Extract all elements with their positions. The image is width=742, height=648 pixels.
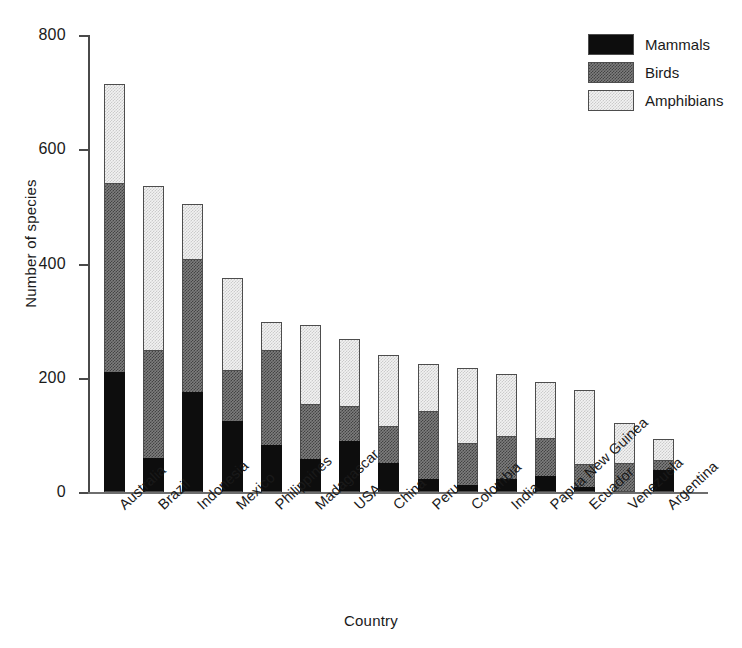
y-tick-200: 200 [79,378,88,380]
y-tick-400: 400 [79,264,88,266]
y-tick-label-800: 800 [38,26,66,44]
legend-item-birds[interactable]: Birds [588,61,738,83]
chart-legend: MammalsBirdsAmphibians [588,33,738,117]
bar-segment-birds [535,438,556,477]
bar-segment-amphibians [182,204,203,259]
legend-item-amphibians[interactable]: Amphibians [588,89,738,111]
bar-segment-amphibians [378,355,399,427]
species-chart-figure: Number of species 0200400600800 Australi… [0,0,742,648]
bar-segment-birds [339,406,360,441]
bar-papua-new-guinea[interactable] [535,382,556,492]
black-solid-swatch [588,34,634,55]
bar-segment-mammals [182,392,203,492]
y-tick-label-600: 600 [38,140,66,158]
bar-segment-amphibians [339,339,360,408]
dark-gray-hatched-swatch [588,62,634,83]
y-tick-800: 800 [79,35,88,37]
bar-segment-amphibians [496,374,517,437]
y-tick-0: 0 [79,492,88,494]
y-tick-label-0: 0 [57,483,66,501]
bar-segment-birds [418,411,439,481]
y-tick-600: 600 [79,149,88,151]
y-axis-title: Number of species [22,154,39,334]
bar-segment-birds [182,259,203,393]
legend-label: Birds [645,64,679,81]
bar-segment-amphibians [222,278,243,372]
bar-segment-amphibians [104,84,125,185]
bar-segment-birds [300,404,321,460]
bar-segment-mammals [378,463,399,492]
bar-segment-amphibians [574,390,595,465]
bar-segment-birds [143,350,164,459]
x-axis-title: Country [0,612,742,629]
y-axis-line [88,35,90,494]
bar-segment-birds [222,370,243,421]
bar-australia[interactable] [104,84,125,492]
bar-segment-birds [378,426,399,465]
bar-segment-amphibians [535,382,556,439]
bar-segment-amphibians [143,186,164,352]
bar-indonesia[interactable] [182,204,203,492]
legend-label: Mammals [645,36,710,53]
bar-segment-amphibians [418,364,439,411]
bar-segment-amphibians [300,325,321,405]
bar-segment-birds [261,350,282,446]
bar-colombia[interactable] [457,368,478,492]
bar-segment-birds [457,443,478,486]
legend-item-mammals[interactable]: Mammals [588,33,738,55]
bar-segment-mammals [104,372,125,492]
bar-brazil[interactable] [143,186,164,492]
y-tick-label-400: 400 [38,255,66,273]
y-tick-label-200: 200 [38,369,66,387]
bar-segment-amphibians [457,368,478,443]
bar-segment-amphibians [261,322,282,352]
bar-philippines[interactable] [261,322,282,493]
bar-segment-birds [104,183,125,373]
bar-peru[interactable] [418,364,439,492]
bar-china[interactable] [378,355,399,492]
light-gray-hatched-swatch [588,90,634,111]
legend-label: Amphibians [645,92,723,109]
